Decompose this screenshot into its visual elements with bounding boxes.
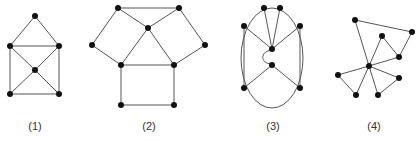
graph-vertex xyxy=(353,92,359,98)
graph-vertex xyxy=(118,102,124,108)
graph-edge xyxy=(148,28,174,65)
graph-vertex xyxy=(396,54,402,60)
graph-vertex xyxy=(409,29,415,35)
graph-vertex xyxy=(32,67,38,73)
graph-edge xyxy=(378,78,399,95)
graph-edge xyxy=(355,20,412,32)
graph-edge xyxy=(174,45,205,65)
graph-vertex xyxy=(176,5,182,11)
graph-edge xyxy=(399,32,412,57)
graph-vertex xyxy=(32,13,38,19)
graph-vertex xyxy=(89,42,95,48)
graph-edge xyxy=(10,16,35,46)
graph-edge xyxy=(118,8,148,28)
graph-edge xyxy=(10,70,35,94)
graph-edge xyxy=(272,65,300,88)
graph-vertex xyxy=(171,62,177,68)
graph-vertex xyxy=(375,92,381,98)
graph-vertex xyxy=(269,46,275,52)
graph-edge xyxy=(356,66,369,95)
graph-vertex xyxy=(261,5,267,11)
outer-ellipse-edge xyxy=(241,8,303,108)
graph-edge xyxy=(369,66,399,78)
graph-3 xyxy=(241,5,303,108)
graph-vertex xyxy=(379,33,385,39)
graph-edge xyxy=(92,45,121,65)
graph-1 xyxy=(7,13,62,97)
graph-edge xyxy=(355,20,369,66)
graph-vertex xyxy=(396,75,402,81)
graph-vertex xyxy=(241,85,247,91)
graph-vertex xyxy=(56,91,62,97)
graph-edge xyxy=(338,66,369,75)
graph-edge xyxy=(35,70,59,94)
graph-edge xyxy=(369,36,382,66)
graph-vertex xyxy=(241,23,247,29)
graph-figure: (1) (2) (3) (4) xyxy=(0,0,417,142)
graph-vertex xyxy=(145,25,151,31)
graph-vertex xyxy=(297,85,303,91)
graph-vertex xyxy=(7,43,13,49)
graph-edge xyxy=(338,75,356,95)
curved-edge xyxy=(263,50,271,64)
graph-vertex xyxy=(269,62,275,68)
graph-vertex xyxy=(118,62,124,68)
graph-edge xyxy=(35,46,59,70)
graph-2 xyxy=(89,5,208,108)
graph-edge xyxy=(382,36,399,57)
graph-vertex xyxy=(171,102,177,108)
graph-3-label: (3) xyxy=(266,120,279,132)
graph-vertex xyxy=(56,43,62,49)
graph-vertex xyxy=(352,17,358,23)
graph-1-label: (1) xyxy=(28,120,41,132)
graph-vertex xyxy=(202,42,208,48)
graph-edge xyxy=(369,66,378,95)
graph-vertex xyxy=(335,72,341,78)
graph-vertex xyxy=(7,91,13,97)
graph-vertex xyxy=(366,63,372,69)
graph-vertex xyxy=(115,5,121,11)
graph-edge xyxy=(92,8,118,45)
graph-edge xyxy=(35,16,59,46)
graph-edge xyxy=(244,65,272,88)
graph-4 xyxy=(335,17,415,98)
graph-edge xyxy=(369,57,399,66)
graph-2-label: (2) xyxy=(142,120,155,132)
graph-4-label: (4) xyxy=(367,120,380,132)
graph-edge xyxy=(10,46,35,70)
graph-vertex xyxy=(277,5,283,11)
graph-edge xyxy=(148,8,179,28)
graph-edge xyxy=(121,28,148,65)
graph-vertex xyxy=(297,23,303,29)
graph-edge xyxy=(179,8,205,45)
